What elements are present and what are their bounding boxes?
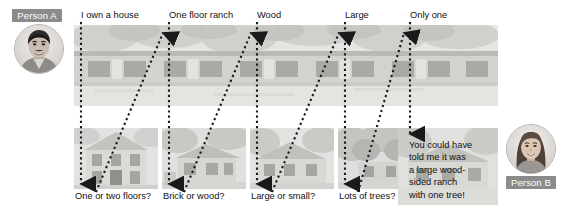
house-photo-icon (250, 128, 334, 189)
top-label-wood: Wood (257, 10, 281, 21)
house-photo-icon (74, 128, 158, 189)
bottom-label-lots-of-trees: Lots of trees? (339, 191, 395, 202)
top-label-one-floor-ranch: One floor ranch (169, 10, 233, 21)
final-statement-text: You could have told me it was a large wo… (409, 139, 499, 201)
brick-house-photo (162, 128, 246, 189)
house-photo-icon (162, 128, 246, 189)
top-label-only-one: Only one (410, 10, 447, 21)
person-a-avatar (14, 24, 64, 74)
large-house-photo (250, 128, 334, 189)
person-a-badge: Person A (12, 9, 62, 22)
house-panorama-photo (74, 25, 498, 106)
female-avatar-photo-icon (507, 125, 555, 173)
figure-canvas: Person A (0, 0, 569, 223)
bottom-label-large-or-small: Large or small? (251, 191, 315, 202)
bottom-label-one-or-two-floors: One or two floors? (75, 191, 151, 202)
male-avatar-photo-icon (15, 25, 63, 73)
bottom-label-brick-or-wood: Brick or wood? (163, 191, 225, 202)
two-story-house-photo (74, 128, 158, 189)
person-b-badge: Person B (506, 176, 556, 189)
person-b-avatar (506, 124, 556, 174)
top-label-large: Large (345, 10, 369, 21)
top-label-own-a-house: I own a house (81, 10, 139, 21)
house-photo-wide-icon (74, 25, 498, 106)
